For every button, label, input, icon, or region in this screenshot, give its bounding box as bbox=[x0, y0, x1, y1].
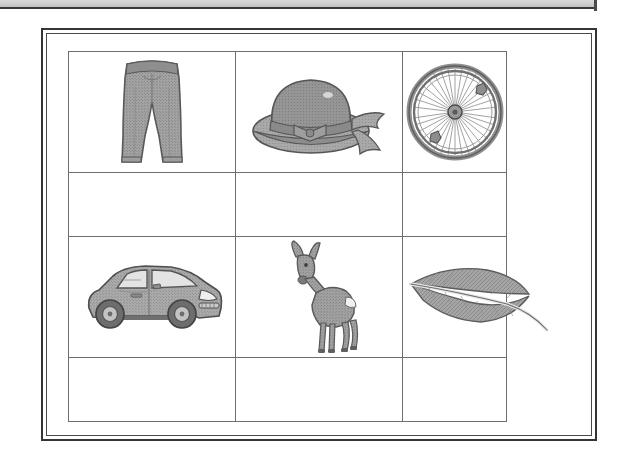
trousers-icon bbox=[109, 58, 195, 166]
grid-cell-car[interactable]: Grey hatchback car bbox=[69, 237, 236, 358]
car-icon bbox=[79, 258, 225, 336]
scanner-edge-bar bbox=[0, 0, 596, 9]
deer-icon bbox=[276, 239, 362, 355]
grid-cell-deer[interactable]: Standing roe deer bbox=[236, 237, 403, 358]
grid-cell-hat[interactable]: Grey hat with ribbon bow bbox=[236, 52, 403, 173]
answer-cell[interactable] bbox=[69, 358, 236, 422]
picture-grid: Grey trousers bbox=[68, 51, 507, 422]
answer-cell[interactable] bbox=[403, 358, 507, 422]
table-row: Grey trousers bbox=[69, 52, 507, 173]
answer-cell[interactable] bbox=[69, 173, 236, 237]
answer-cell[interactable] bbox=[236, 358, 403, 422]
feather-icon bbox=[403, 254, 553, 340]
scanner-edge-bar-cap bbox=[594, 0, 597, 11]
grid-cell-feather[interactable]: Bird feather bbox=[403, 237, 507, 358]
table-row: Grey hatchback car bbox=[69, 237, 507, 358]
grid-cell-bicycle-wheel[interactable]: Spoked bicycle wheel bbox=[403, 52, 507, 173]
grid-cell-trousers[interactable]: Grey trousers bbox=[69, 52, 236, 173]
table-row bbox=[69, 358, 507, 422]
answer-cell[interactable] bbox=[236, 173, 403, 237]
answer-cell[interactable] bbox=[403, 173, 507, 237]
table-row bbox=[69, 173, 507, 237]
bicycle-wheel-icon bbox=[405, 62, 505, 162]
sun-hat-icon bbox=[248, 62, 390, 162]
scanned-page: Grey trousers bbox=[0, 0, 624, 468]
